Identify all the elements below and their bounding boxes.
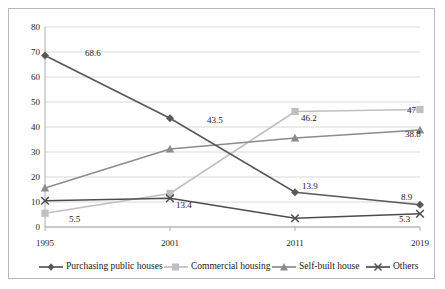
data-label-purchasing-1995: 68.6	[85, 48, 101, 58]
series-line	[45, 198, 420, 218]
y-tick-label-50: 50	[31, 97, 41, 107]
line-chart-svg: 80 70 60 50 40 30 20 10 0 1995 2001 2011…	[9, 9, 436, 280]
diamond-marker-icon	[48, 263, 55, 271]
square-marker-icon	[172, 264, 179, 271]
legend-label-selfbuilt: Self-built house	[299, 261, 359, 271]
plot-area: 80 70 60 50 40 30 20 10 0 1995 2001 2011…	[9, 9, 434, 278]
legend-item-commercial-housing[interactable]: Commercial housing	[164, 261, 271, 271]
x-axis-labels: 1995 2001 2011 2019	[36, 238, 430, 248]
y-axis-labels: 80 70 60 50 40 30 20 10 0	[31, 22, 41, 232]
x-tick-label-2001: 2001	[161, 238, 179, 248]
data-label-selfbuilt-2019: 38.8	[405, 129, 421, 139]
legend-label-others: Others	[393, 261, 419, 271]
data-point-marker	[291, 188, 299, 196]
legend-label-purchasing: Purchasing public houses	[66, 261, 163, 271]
data-point-marker	[166, 114, 174, 122]
x-tick-label-2019: 2019	[411, 238, 430, 248]
chart-container: 80 70 60 50 40 30 20 10 0 1995 2001 2011…	[8, 8, 435, 279]
gridlines	[45, 27, 420, 227]
legend-item-purchasing-public-houses[interactable]: Purchasing public houses	[39, 261, 163, 271]
data-point-marker	[41, 52, 49, 60]
y-tick-label-10: 10	[31, 197, 41, 207]
y-tick-label-20: 20	[31, 172, 41, 182]
y-tick-label-70: 70	[31, 47, 41, 57]
x-tick-label-2011: 2011	[286, 238, 304, 248]
series-purchasing-public-houses	[41, 52, 424, 209]
legend-label-commercial: Commercial housing	[191, 261, 271, 271]
series-line	[45, 110, 420, 214]
legend-item-self-built-house[interactable]: Self-built house	[272, 261, 359, 271]
y-tick-label-30: 30	[31, 147, 41, 157]
y-tick-label-0: 0	[36, 222, 41, 232]
data-point-marker	[41, 210, 48, 217]
data-label-commercial-2001: 13.4	[176, 200, 192, 210]
data-labels: 68.6 43.5 13.9 8.9 5.5 13.4 46.2 47 38.8…	[69, 48, 421, 224]
data-label-purchasing-2011: 13.9	[302, 181, 318, 191]
series-line	[45, 130, 420, 188]
data-label-commercial-1995: 5.5	[69, 214, 81, 224]
series-line	[45, 56, 420, 205]
data-label-commercial-2019: 47	[407, 105, 417, 115]
legend-item-others[interactable]: Others	[366, 261, 419, 271]
y-tick-label-60: 60	[31, 72, 41, 82]
y-tick-label-40: 40	[31, 122, 41, 132]
data-label-purchasing-2001: 43.5	[207, 115, 223, 125]
x-tick-label-1995: 1995	[36, 238, 55, 248]
data-point-marker	[291, 108, 298, 115]
x-tickmarks	[45, 227, 420, 231]
data-point-marker	[416, 106, 423, 113]
y-tick-label-80: 80	[31, 22, 41, 32]
series-self-built-house	[41, 126, 424, 192]
data-label-commercial-2011: 46.2	[301, 113, 317, 123]
chart-legend: Purchasing public houses Commercial hous…	[39, 261, 419, 271]
data-label-purchasing-2019: 8.9	[401, 192, 413, 202]
data-label-others-2019: 5.3	[399, 214, 411, 224]
